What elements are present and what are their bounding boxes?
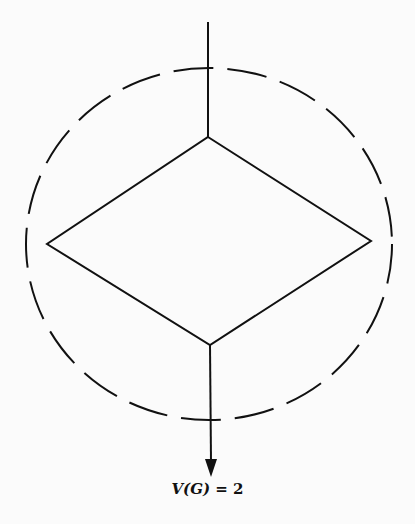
cyclomatic-complexity-label: V(G) = 2 [0, 480, 415, 498]
flowgraph-diagram [0, 0, 415, 524]
exit-edge [210, 345, 211, 462]
decision-node [47, 137, 371, 345]
arrow-head-icon [205, 459, 217, 477]
label-arg: (G) [183, 480, 210, 498]
label-prefix: V [171, 480, 183, 498]
label-value: = 2 [210, 480, 243, 498]
